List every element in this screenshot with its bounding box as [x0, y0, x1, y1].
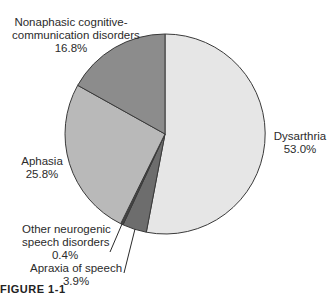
leader-line-other — [110, 224, 122, 252]
label-other-neurogenic: Other neurogenic speech disorders 0.4% — [22, 223, 108, 262]
figure-caption: FIGURE 1-1 — [0, 283, 66, 293]
label-text: speech disorders — [22, 236, 108, 249]
label-nonaphasic: Nonaphasic cognitive- communication diso… — [12, 16, 130, 55]
label-value: 25.8% — [18, 168, 66, 181]
leader-line-apraxia — [124, 229, 135, 273]
label-value: 53.0% — [268, 143, 332, 156]
label-text: communication disorders — [12, 29, 130, 42]
label-text: Nonaphasic cognitive- — [12, 16, 130, 29]
label-dysarthria: Dysarthria 53.0% — [268, 130, 332, 156]
label-text: Apraxia of speech — [30, 262, 122, 275]
label-text: Dysarthria — [268, 130, 332, 143]
label-value: 0.4% — [22, 249, 108, 262]
label-value: 16.8% — [12, 42, 130, 55]
label-aphasia: Aphasia 25.8% — [18, 155, 66, 181]
label-text: Other neurogenic — [22, 223, 108, 236]
label-text: Aphasia — [18, 155, 66, 168]
